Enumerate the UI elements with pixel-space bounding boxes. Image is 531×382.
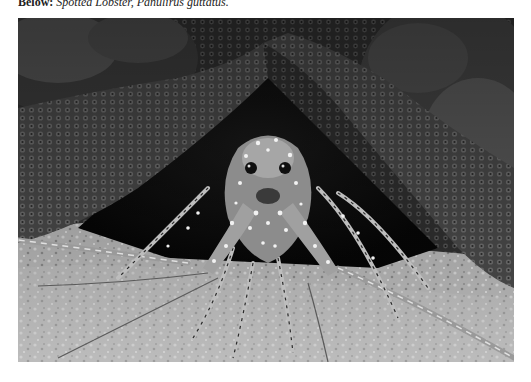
photo-illustration — [18, 18, 514, 362]
caption-text: Spotted Lobster, Panulirus guttatus. — [56, 0, 228, 9]
document-page: Below: Spotted Lobster, Panulirus guttat… — [0, 0, 531, 382]
caption-lead: Below: — [18, 0, 53, 9]
lobster-photograph — [18, 18, 514, 362]
photo-caption: Below: Spotted Lobster, Panulirus guttat… — [18, 0, 229, 9]
